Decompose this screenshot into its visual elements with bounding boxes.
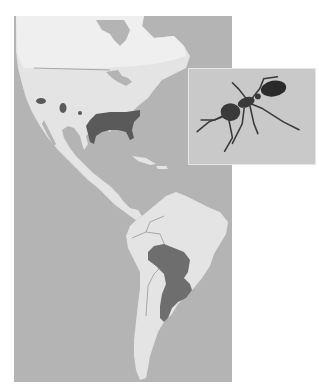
range-arizona — [60, 103, 67, 113]
ant-head — [221, 103, 241, 121]
hispaniola — [156, 166, 168, 169]
ant-photo-inset — [188, 68, 316, 165]
ant-icon — [189, 69, 315, 164]
range-texas — [78, 111, 82, 115]
cuba — [132, 156, 156, 165]
range-california — [36, 98, 46, 104]
